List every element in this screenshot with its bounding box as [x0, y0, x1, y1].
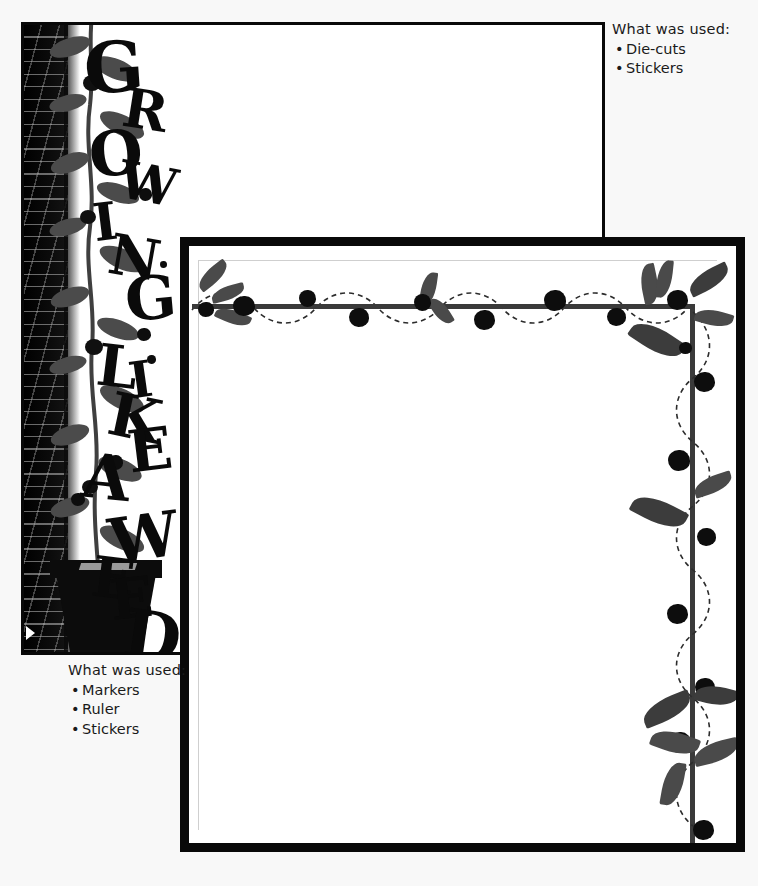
list-item: Stickers: [82, 720, 186, 740]
list-item: Stickers: [626, 59, 730, 79]
vine-berry: [679, 342, 692, 354]
vine-berry: [474, 310, 495, 330]
vine-berry: [233, 296, 255, 316]
vine-berry: [544, 290, 566, 311]
caption-title: What was used:: [612, 20, 730, 40]
list-item: Die-cuts: [626, 40, 730, 60]
caption-title: What was used:: [68, 661, 186, 681]
vine-berry: [349, 308, 369, 327]
caption-markers: What was used: Markers Ruler Stickers: [68, 661, 186, 739]
vine-berry: [414, 294, 431, 311]
caption-item-list: Markers Ruler Stickers: [68, 681, 186, 740]
title-letter-A: A: [79, 445, 133, 512]
inner-guide-rule-top: [198, 260, 717, 261]
caption-die-cuts: What was used: Die-cuts Stickers: [612, 20, 730, 79]
display-arrow-icon: [26, 626, 35, 640]
vine-berry: [667, 604, 688, 624]
vine-berry: [668, 450, 690, 471]
title-letter-G2: G: [122, 266, 178, 330]
vine-berry: [693, 820, 714, 840]
scrapbook-layout-page-2: [180, 237, 745, 852]
title-letter-D: D: [120, 599, 186, 655]
list-item: Markers: [82, 681, 186, 701]
vine-berry: [667, 290, 688, 310]
caption-item-list: Die-cuts Stickers: [612, 40, 730, 79]
vine-berry: [198, 302, 214, 317]
vine-berry: [299, 290, 316, 307]
inner-guide-rule-left: [198, 260, 199, 830]
vine-berry: [607, 308, 626, 326]
vine-berry: [694, 372, 715, 392]
vine-berry: [697, 528, 716, 546]
title-letter-W: W: [115, 153, 182, 215]
list-item: Ruler: [82, 700, 186, 720]
